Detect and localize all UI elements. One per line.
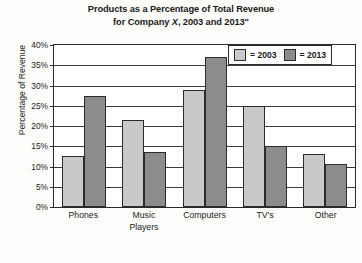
x-axis-label: TV's <box>235 210 296 233</box>
y-axis-tick-label: 35% <box>31 60 48 70</box>
x-axis-label: Phones <box>53 210 114 233</box>
chart-title-line-2: for Company X, 2003 and 2013" <box>0 16 362 29</box>
y-axis-title: Percentage of Revenue <box>17 15 27 165</box>
bars-layer <box>54 45 355 207</box>
y-axis-tick <box>50 207 54 208</box>
bar-group <box>114 45 174 207</box>
bar-chart: Products as a Percentage of Total Revenu… <box>0 0 362 263</box>
bar <box>303 154 325 207</box>
bar-group <box>54 45 114 207</box>
bar <box>84 96 106 207</box>
bar <box>122 120 144 207</box>
plot-area: 40%35%30%25%20%15%10%5%0% <box>53 44 356 208</box>
x-axis-label: Computers <box>174 210 235 233</box>
y-axis-tick-label: 5% <box>36 182 48 192</box>
legend-swatch <box>234 49 246 61</box>
x-axis-label: Other <box>295 210 356 233</box>
y-axis-tick-label: 0% <box>36 202 48 212</box>
legend-entry: = 2013 <box>284 49 327 61</box>
x-axis-labels: PhonesMusic PlayersComputersTV'sOther <box>53 210 356 233</box>
legend-swatch <box>284 49 296 61</box>
bar <box>325 164 347 207</box>
bar <box>144 152 166 207</box>
bar <box>205 57 227 207</box>
bar <box>183 90 205 207</box>
bar <box>243 106 265 207</box>
legend-entry: = 2003 <box>234 49 277 61</box>
y-axis-tick-label: 25% <box>31 101 48 111</box>
bar-group <box>235 45 295 207</box>
legend-label: = 2003 <box>250 50 277 60</box>
bar-group <box>174 45 234 207</box>
chart-title-line-1: Products as a Percentage of Total Revenu… <box>0 3 362 16</box>
bar <box>62 156 84 207</box>
chart-legend: = 2003= 2013 <box>228 45 332 65</box>
x-axis-label: Music Players <box>114 210 175 233</box>
y-axis-tick-label: 15% <box>31 141 48 151</box>
chart-title-line-2-suffix: , 2003 and 2013" <box>178 17 249 27</box>
y-axis-tick-label: 20% <box>31 121 48 131</box>
bar-group <box>295 45 355 207</box>
chart-title-line-2-prefix: for Company <box>113 17 172 27</box>
bar <box>265 146 287 207</box>
y-axis-tick-label: 10% <box>31 162 48 172</box>
y-axis-tick-label: 30% <box>31 81 48 91</box>
legend-label: = 2013 <box>300 50 327 60</box>
y-axis-tick-label: 40% <box>31 40 48 50</box>
chart-title: Products as a Percentage of Total Revenu… <box>0 3 362 28</box>
